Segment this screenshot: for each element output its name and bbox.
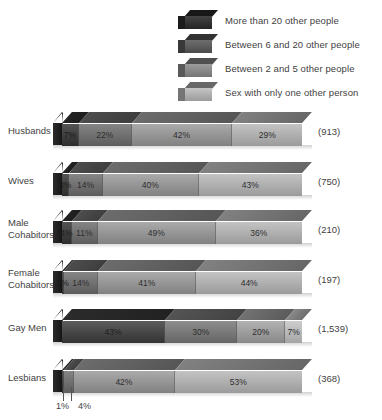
bar-top-face [62, 162, 322, 173]
row-count-label: (1,539) [318, 323, 348, 334]
bar-top-face [62, 112, 322, 123]
bar-segment-value-label: 43% [105, 327, 122, 337]
bar-segment: 4% [62, 222, 72, 244]
bar-segment-value-label: 20% [252, 327, 269, 337]
bar-top-face [62, 359, 322, 370]
callout-leader-line [71, 387, 72, 401]
bar-front-face: 4%11%49%36% [62, 221, 302, 244]
bar-segment-value-label: 7% [64, 130, 76, 140]
chart-row: FemaleCohabitors1%14%41%44%(197) [0, 260, 382, 306]
stacked-bar-chart: More than 20 other peopleBetween 6 and 2… [0, 0, 382, 420]
bar-front-face: 3%14%40%43% [62, 173, 302, 196]
bar-segment: 40% [103, 174, 199, 196]
bar-segment-value-label: 7% [287, 327, 299, 337]
bar-segment-top [232, 112, 311, 123]
bar-segment-top [98, 210, 225, 221]
stacked-bar: 3%14%40%43% [62, 162, 312, 202]
bar-segment [64, 371, 74, 393]
bar-segment: 43% [199, 174, 302, 196]
chart-row: MaleCohabitors4%11%49%36%(210) [0, 210, 382, 256]
callout-leader-line [63, 387, 64, 401]
legend-swatch-icon [178, 82, 218, 102]
bar-segment-top [103, 162, 209, 173]
legend-swatch-icon [178, 10, 218, 30]
bar-segment: 3% [62, 174, 69, 196]
bar-segment-value-label: 42% [173, 130, 190, 140]
bar-segment-value-label: 36% [250, 228, 267, 238]
bar-segment: 36% [216, 222, 302, 244]
swatch-side-face [178, 88, 185, 101]
bar-segment-top [74, 359, 185, 370]
bar-segment-value-label: 11% [76, 228, 92, 238]
bar-segment-top [216, 210, 312, 221]
bar-segment: 7% [285, 321, 302, 343]
legend-item-label: Between 2 and 5 other people [225, 63, 355, 74]
bar-segment-value-label: 30% [192, 327, 209, 337]
stacked-bar: 42%53% [62, 359, 312, 399]
chart-row: Lesbians42%53%1%4%(368) [0, 359, 382, 405]
bar-segment-value-label: 14% [77, 180, 94, 190]
bar-segment-value-label: 3% [59, 180, 71, 190]
bar-segment-value-label: 40% [142, 180, 159, 190]
bar-top-face [62, 309, 322, 320]
bar-segment: 43% [62, 321, 165, 343]
bar-segment-value-label: 53% [230, 377, 247, 387]
bar-segment: 20% [237, 321, 285, 343]
bar-segment: 14% [69, 174, 103, 196]
bar-left-cap-top [53, 162, 63, 173]
legend-swatch-icon [178, 34, 218, 54]
swatch-side-face [178, 16, 185, 29]
bar-segment: 42% [132, 124, 233, 146]
bar-front-face: 1%14%41%44% [62, 271, 302, 294]
legend-item-label: Between 6 and 20 other people [225, 39, 360, 50]
row-count-label: (750) [318, 176, 340, 187]
bar-segment-value-label: 4% [60, 228, 72, 238]
legend-item-label: Sex with only one other person [225, 87, 358, 98]
chart-legend: More than 20 other peopleBetween 6 and 2… [178, 8, 360, 104]
bar-segment-top [62, 309, 175, 320]
bar-front-face: 43%30%20%7% [62, 320, 302, 343]
bar-left-cap-top [53, 309, 63, 320]
legend-item: More than 20 other people [178, 8, 360, 32]
chart-row: Husbands7%22%42%29%(913) [0, 112, 382, 158]
stacked-bar: 4%11%49%36% [62, 210, 312, 250]
bar-segment: 44% [196, 272, 302, 294]
bar-top-face [62, 260, 322, 271]
bar-segment-top [175, 359, 312, 370]
swatch-side-face [178, 40, 185, 53]
bar-segment-value-label: 42% [115, 377, 132, 387]
row-count-label: (368) [318, 373, 340, 384]
legend-swatch-icon [178, 58, 218, 78]
bar-segment: 11% [72, 222, 98, 244]
legend-item-label: More than 20 other people [225, 15, 339, 26]
stacked-bar: 7%22%42%29% [62, 112, 312, 152]
bar-segment-top [132, 112, 243, 123]
legend-item: Between 2 and 5 other people [178, 56, 360, 80]
bar-segment-value-label: 1% [57, 278, 69, 288]
bar-segment-value-label: 43% [242, 180, 259, 190]
bar-left-cap-top [53, 112, 63, 123]
bar-segment: 53% [175, 371, 302, 393]
stacked-bar: 1%14%41%44% [62, 260, 312, 300]
row-count-label: (210) [318, 224, 340, 235]
bar-segment: 49% [98, 222, 216, 244]
bar-segment: 22% [79, 124, 132, 146]
bar-segment: 14% [64, 272, 98, 294]
bar-left-cap-top [53, 359, 63, 370]
bar-segment-value-label: 14% [72, 278, 89, 288]
bar-front-face: 42%53% [62, 370, 302, 393]
bar-segment-top [98, 260, 206, 271]
legend-item: Between 6 and 20 other people [178, 32, 360, 56]
stacked-bar: 43%30%20%7% [62, 309, 312, 349]
bar-segment: 30% [165, 321, 237, 343]
row-count-label: (913) [318, 126, 340, 137]
chart-row: Wives3%14%40%43%(750) [0, 162, 382, 208]
bar-front-face: 7%22%42%29% [62, 123, 302, 146]
bar-segment-top [196, 260, 311, 271]
callout-value-label: 4% [78, 401, 91, 411]
callout-value-label: 1% [56, 401, 69, 411]
bar-segment: 41% [98, 272, 196, 294]
bar-segment-value-label: 22% [96, 130, 113, 140]
bar-segment-value-label: 41% [138, 278, 155, 288]
swatch-side-face [178, 64, 185, 77]
